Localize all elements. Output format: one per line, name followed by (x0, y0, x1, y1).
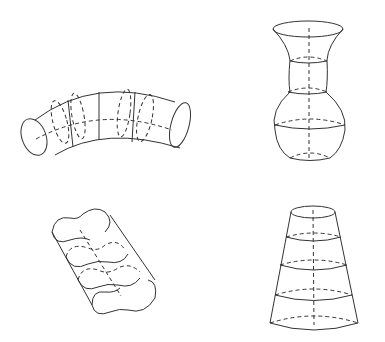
figure-eight-prism-diagram (52, 209, 156, 314)
bent-tube-diagram (16, 88, 194, 159)
frustum-diagram (270, 206, 358, 330)
figure-canvas (0, 0, 385, 342)
vase-diagram (273, 21, 345, 161)
